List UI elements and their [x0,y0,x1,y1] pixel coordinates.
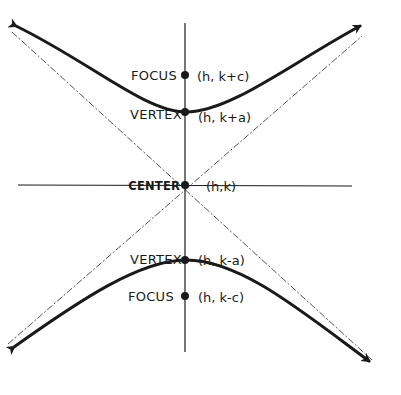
center-coord: (h,k) [206,179,236,194]
lower-focus-label: FOCUS [128,289,174,304]
upper-focus-point [181,71,189,79]
upper-vertex-coord: (h, k+a) [198,110,251,125]
upper-focus-coord: (h, k+c) [197,69,249,84]
lower-vertex-coord: (h, k-a) [198,253,245,268]
lower-focus-point [181,292,189,300]
lower-focus-coord: (h, k-c) [198,290,244,305]
upper-focus-label: FOCUS [131,68,177,83]
lower-vertex-point [181,256,189,264]
upper-vertex-point [181,108,189,116]
upper-vertex-label: VERTEX [130,107,182,122]
lower-branch [14,260,369,361]
upper-branch [16,26,360,112]
hyperbola-diagram: FOCUS (h, k+c) VERTEX (h, k+a) CENTER (h… [0,0,401,395]
center-label: CENTER [128,179,180,193]
center-point [181,181,189,189]
lower-vertex-label: VERTEX [130,252,182,267]
